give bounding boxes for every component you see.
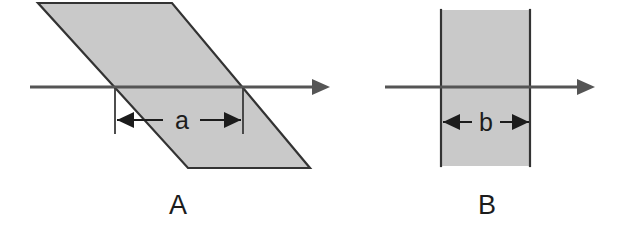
dimension-label-a: a [175,106,189,134]
optics-slab-figure: a A b B [0,0,629,233]
panel-label-a: A [169,190,187,220]
ray-arrowhead-icon [577,79,595,95]
ray-arrowhead-icon [312,79,330,95]
figure-root: a A b B [0,0,629,233]
dimension-arrowhead-left-icon [117,112,134,128]
dimension-label-b: b [479,108,493,136]
panel-label-b: B [478,190,496,220]
panel-a: a A [30,3,330,220]
panel-b: b B [385,10,595,220]
